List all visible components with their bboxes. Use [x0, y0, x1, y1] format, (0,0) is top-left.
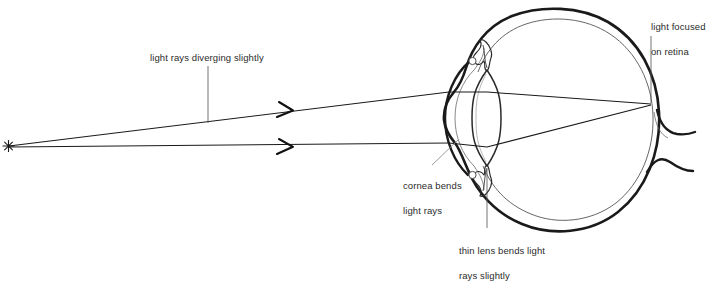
ray-upper-arrowhead — [277, 102, 293, 117]
label-thin-lens-line1: thin lens bends light — [459, 245, 545, 256]
ray-lower-arrowhead — [277, 139, 293, 154]
ray-lower-incident — [9, 143, 449, 147]
label-thin-lens-bends-light-rays: thin lens bends light rays slightly — [448, 232, 545, 285]
ciliary-muscle-dot-upper — [469, 57, 476, 64]
label-cornea-line1: cornea bends — [403, 180, 462, 191]
point-light-source-icon — [3, 141, 14, 152]
label-cornea-line2: light rays — [403, 205, 442, 216]
label-light-rays-diverging: light rays diverging slightly — [150, 52, 264, 65]
ray-upper-incident — [9, 92, 449, 146]
label-cornea-bends-light-rays: cornea bends light rays — [392, 167, 462, 230]
ciliary-muscle-dot-lower — [469, 171, 476, 178]
label-light-focused-line2: on retina — [651, 46, 689, 57]
optic-nerve-upper-edge — [657, 110, 695, 134]
label-light-focused-line1: light focused — [651, 21, 706, 32]
label-thin-lens-line2: rays slightly — [459, 270, 510, 281]
leader-cornea — [432, 140, 458, 165]
label-light-focused-on-retina: light focused on retina — [640, 8, 706, 71]
